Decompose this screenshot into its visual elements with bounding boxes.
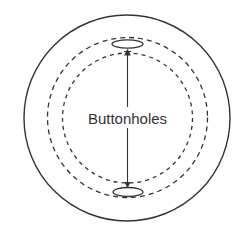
top-buttonhole	[112, 40, 143, 48]
bottom-buttonhole	[113, 188, 143, 197]
buttonholes-label: Buttonholes	[88, 110, 167, 127]
buttonholes-diagram: Buttonholes	[0, 0, 241, 235]
